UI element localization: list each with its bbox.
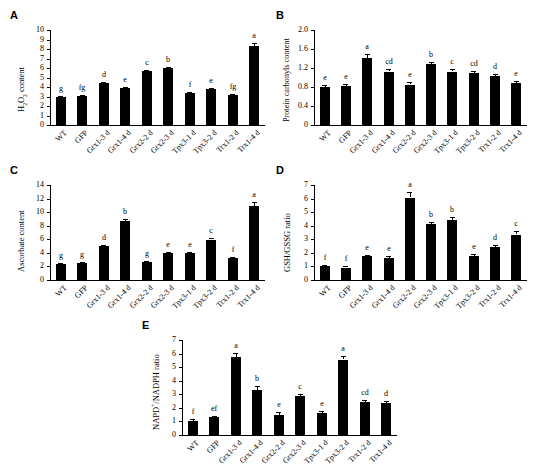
bar <box>490 247 500 280</box>
error-bar-cap <box>209 88 214 89</box>
y-tick <box>311 106 314 107</box>
error-bar <box>279 412 280 415</box>
x-axis-line <box>314 280 527 281</box>
x-tick-label: Grx2-2 d <box>368 284 417 333</box>
significance-letter: a <box>224 342 248 350</box>
x-tick-label: Grx2-2 d <box>105 284 154 333</box>
error-bar-cap <box>252 43 257 44</box>
x-tick-label: WT <box>151 439 200 476</box>
y-tick <box>47 68 50 69</box>
significance-letter: a <box>331 345 355 353</box>
bar <box>405 85 415 125</box>
y-axis-line <box>50 30 51 126</box>
significance-letter: c <box>504 220 528 228</box>
y-tick-label: 2.0 <box>280 26 308 34</box>
x-tick-label: Tpx3-2 d <box>169 284 218 333</box>
plot-area-a: 012345678910gWTfgGFPdGrx1-3 deGrx1-4 dcG… <box>50 30 265 125</box>
error-bar <box>474 71 475 73</box>
bar <box>469 256 479 280</box>
x-axis-line <box>50 125 265 126</box>
significance-letter: a <box>355 43 379 51</box>
x-tick-label: Grx1-3 d <box>325 129 374 178</box>
y-tick-label: 0 <box>16 121 44 129</box>
error-bar <box>104 82 105 83</box>
error-bar <box>147 70 148 72</box>
error-bar <box>346 84 347 86</box>
y-tick-label: 5 <box>148 363 176 371</box>
y-tick <box>179 354 182 355</box>
error-bar <box>343 356 344 359</box>
bar <box>228 258 238 280</box>
error-bar <box>452 69 453 71</box>
significance-letter: b <box>419 211 443 219</box>
y-tick <box>179 435 182 436</box>
y-tick-label: 6 <box>280 195 308 203</box>
bar <box>360 402 370 435</box>
error-bar <box>236 353 237 357</box>
y-tick-label: 5 <box>280 208 308 216</box>
x-tick-label: Trx1-2 d <box>191 129 240 178</box>
bar <box>142 71 152 125</box>
y-tick-label: 7 <box>16 55 44 63</box>
y-tick <box>47 185 50 186</box>
panel-letter-b: B <box>276 10 284 21</box>
error-bar <box>410 192 411 197</box>
x-tick-label: GFP <box>172 439 221 476</box>
error-bar-cap <box>386 69 391 70</box>
y-tick <box>47 253 50 254</box>
panel-letter-d: D <box>276 165 284 176</box>
y-tick-label: 2 <box>280 249 308 257</box>
y-tick <box>47 239 50 240</box>
error-bar-cap <box>493 245 498 246</box>
significance-letter: e <box>398 71 422 79</box>
y-axis-line <box>314 185 315 281</box>
y-tick <box>311 253 314 254</box>
bar <box>447 220 457 280</box>
bar <box>185 253 195 280</box>
error-bar-cap <box>233 353 238 354</box>
x-tick-label: GFP <box>40 129 89 178</box>
error-bar-cap <box>144 70 149 71</box>
x-tick-label: Grx1-4 d <box>83 284 132 333</box>
significance-letter: e <box>313 74 337 82</box>
significance-letter: g <box>49 85 73 93</box>
significance-letter: e <box>462 243 486 251</box>
panel-e: ENAPD+/NADPH ratio01234567fWTefGFPaGrx1-… <box>0 0 538 476</box>
error-bar <box>325 265 326 267</box>
panel-letter-a: A <box>10 10 18 21</box>
x-tick-label: GFP <box>40 284 89 333</box>
significance-letter: b <box>245 375 269 383</box>
bar <box>317 413 327 435</box>
error-bar-cap <box>322 85 327 86</box>
x-tick-label: Grx2-2 d <box>368 129 417 178</box>
y-tick-label: 1 <box>16 112 44 120</box>
error-bar-cap <box>343 266 348 267</box>
error-bar-cap <box>514 231 519 232</box>
error-bar <box>233 257 234 258</box>
significance-letter: c <box>288 383 312 391</box>
y-tick <box>311 30 314 31</box>
significance-letter: f <box>334 255 358 263</box>
y-tick-label: 0 <box>16 276 44 284</box>
x-tick-label: Grx2-3 d <box>126 129 175 178</box>
y-tick-label: 2 <box>16 102 44 110</box>
significance-letter: b <box>419 51 443 59</box>
significance-letter: a <box>242 191 266 199</box>
error-bar <box>389 256 390 258</box>
x-tick-label: Grx2-2 d <box>237 439 286 476</box>
bar <box>384 258 394 280</box>
bar <box>447 72 457 125</box>
x-tick-label: Trx1-4 d <box>474 284 523 333</box>
y-tick <box>47 30 50 31</box>
significance-letter: d <box>92 71 116 79</box>
error-bar <box>431 222 432 224</box>
error-bar <box>61 96 62 97</box>
y-tick <box>47 59 50 60</box>
y-axis-label-a: H2O2 content <box>16 67 28 112</box>
y-tick <box>47 266 50 267</box>
x-tick-label: Trx1-2 d <box>323 439 372 476</box>
y-axis-label-b: Protein carbonyls content <box>282 38 291 122</box>
y-tick <box>47 40 50 41</box>
bar <box>231 357 241 435</box>
plot-area-d: 01234567fWTfGFPeGrx1-3 deGrx1-4 daGrx2-2… <box>314 185 527 280</box>
